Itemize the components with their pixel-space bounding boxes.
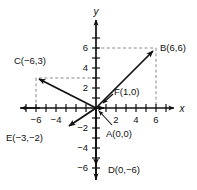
point-label-e: E(−3,−2) [6, 132, 43, 143]
point-label-b: B(6,6) [160, 42, 186, 53]
x-tick-label: 6 [153, 114, 158, 125]
y-tick-label: −4 [77, 142, 88, 153]
point-label-a: A(0,0) [106, 128, 132, 139]
axis-lines [20, 20, 174, 180]
x-tick-label: 2 [113, 114, 118, 125]
y-tick-label: −6 [77, 162, 88, 173]
x-tick-label: −4 [51, 114, 62, 125]
x-tick-label: 4 [133, 114, 138, 125]
x-tick-labels: −6 −4 2 4 6 [31, 114, 159, 125]
y-tick-label: 4 [83, 62, 88, 73]
coordinate-plane-figure: −6 −4 2 4 6 6 4 2 −2 −4 −6 x y B(6,6) C(… [0, 0, 197, 190]
point-label-c: C(−6,3) [14, 55, 46, 66]
y-tick-label: 2 [83, 82, 88, 93]
point-label-f: F(1,0) [114, 86, 139, 97]
x-tick-label: −6 [31, 114, 42, 125]
leader-line-a [99, 111, 112, 125]
x-axis-label: x [179, 103, 186, 114]
y-tick-label: −2 [77, 122, 88, 133]
y-axis-label: y [93, 6, 100, 17]
point-label-d: D(0,−6) [108, 164, 140, 175]
coordinate-plot-svg: −6 −4 2 4 6 6 4 2 −2 −4 −6 x y B(6,6) C(… [0, 0, 197, 190]
y-tick-label: 6 [83, 42, 88, 53]
vector-to-b [96, 51, 153, 108]
